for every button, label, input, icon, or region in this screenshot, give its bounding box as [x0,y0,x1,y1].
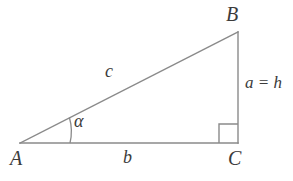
angle-alpha-arc [69,118,71,144]
angle-label-alpha: α [74,112,83,130]
right-angle-marker [219,124,238,143]
side-label-a-equals-h: a = h [245,74,282,91]
right-triangle-diagram: A B C b c α a = h [0,0,293,181]
side-label-b: b [123,148,132,166]
vertex-label-a: A [10,148,22,168]
side-c-line [20,32,238,143]
vertex-label-c: C [228,148,241,168]
side-label-c: c [105,62,113,80]
vertex-label-b: B [226,4,238,24]
